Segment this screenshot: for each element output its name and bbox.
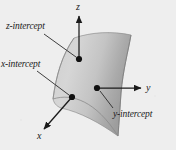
y-axis-label: y bbox=[146, 83, 150, 93]
surface-patch bbox=[53, 33, 131, 136]
figure-container: z-intercept x-intercept y-intercept z y … bbox=[0, 0, 176, 150]
z-axis-label: z bbox=[76, 2, 80, 12]
x-axis-label: x bbox=[37, 131, 41, 141]
z-intercept-dot bbox=[76, 56, 82, 62]
x-intercept-dot bbox=[69, 94, 75, 100]
z-intercept-label: z-intercept bbox=[6, 22, 45, 32]
y-intercept-dot bbox=[94, 85, 100, 91]
x-intercept-label: x-intercept bbox=[1, 60, 40, 70]
y-intercept-label: y-intercept bbox=[113, 110, 152, 120]
